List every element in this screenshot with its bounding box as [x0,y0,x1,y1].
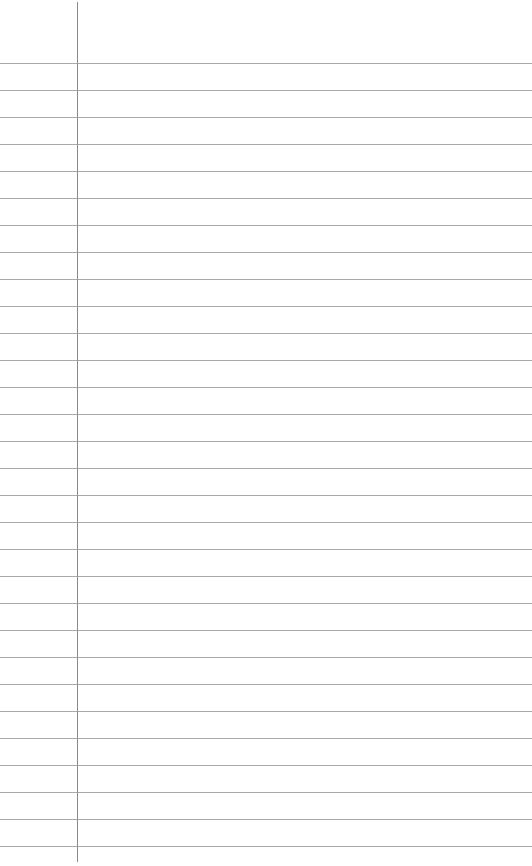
ruled-line [0,576,532,577]
ruled-line [0,630,532,631]
ruled-line [0,684,532,685]
ruled-line [0,603,532,604]
ruled-line [0,549,532,550]
ruled-line [0,495,532,496]
ruled-line [0,279,532,280]
ruled-line [0,819,532,820]
ruled-line [0,306,532,307]
ruled-line [0,90,532,91]
margin-line [77,2,78,862]
ruled-line [0,225,532,226]
ruled-line [0,387,532,388]
ruled-line [0,468,532,469]
ruled-line [0,333,532,334]
ruled-line [0,144,532,145]
ruled-line [0,171,532,172]
ruled-line [0,522,532,523]
ruled-line [0,360,532,361]
ruled-line [0,198,532,199]
ruled-line [0,765,532,766]
ruled-line [0,117,532,118]
ruled-line [0,441,532,442]
ruled-line [0,657,532,658]
ruled-line [0,792,532,793]
lined-paper-page [0,0,532,866]
ruled-line [0,63,532,64]
ruled-line [0,738,532,739]
ruled-line [0,846,532,847]
ruled-line [0,252,532,253]
ruled-line [0,711,532,712]
ruled-line [0,414,532,415]
